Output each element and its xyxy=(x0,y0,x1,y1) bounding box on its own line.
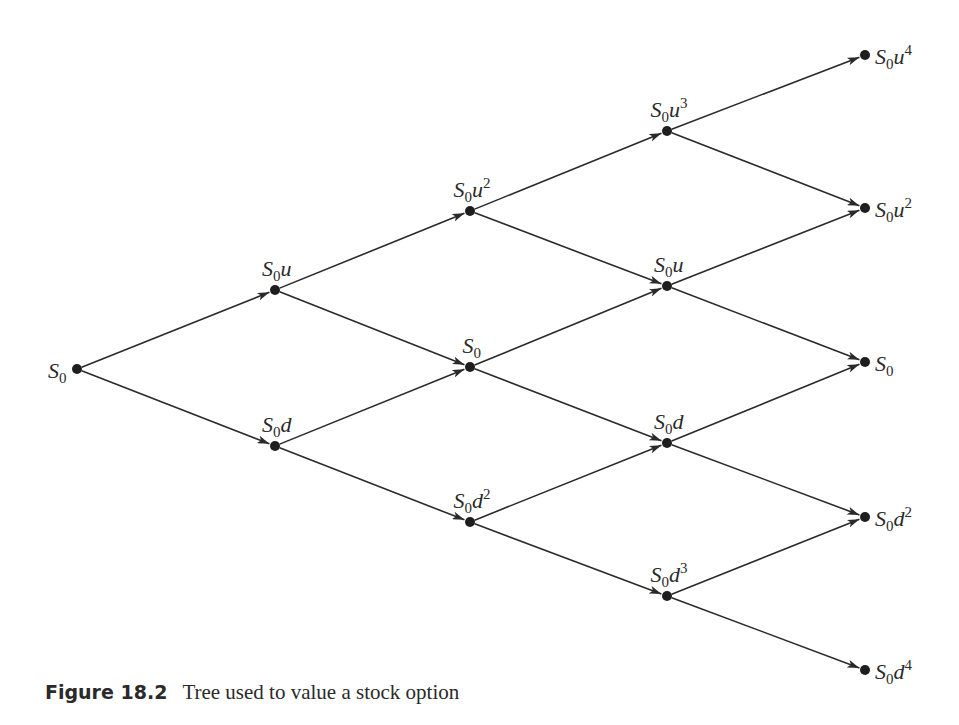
edge-arrow-n2_2-n3_3 xyxy=(475,524,662,594)
node-dot-n1_0 xyxy=(270,285,280,295)
label-base: S xyxy=(875,44,886,69)
label-variable: d xyxy=(894,506,905,531)
node-label-n2_1: S0 xyxy=(463,335,482,357)
node-dot-n3_2 xyxy=(662,438,672,448)
label-subscript: 0 xyxy=(474,345,482,361)
node-label-n3_0: S0u3 xyxy=(651,99,688,121)
label-exponent: 2 xyxy=(483,486,491,502)
tree-nodes xyxy=(72,50,870,675)
label-base: S xyxy=(875,351,886,376)
label-exponent: 3 xyxy=(680,95,688,111)
edge-arrow-n1_1-n2_1 xyxy=(280,369,465,444)
node-dot-n4_2 xyxy=(860,357,870,367)
node-label-n2_0: S0u2 xyxy=(454,179,491,201)
label-base: S xyxy=(875,197,886,222)
label-variable: u xyxy=(472,177,483,202)
edge-arrow-n3_2-n4_3 xyxy=(672,445,860,515)
label-subscript: 0 xyxy=(273,424,281,440)
edge-arrow-n2_0-n3_1 xyxy=(475,213,662,284)
label-exponent: 4 xyxy=(905,657,913,673)
label-variable: u xyxy=(281,256,292,281)
node-label-n3_1: S0u xyxy=(654,254,684,276)
node-label-n0_0: S0 xyxy=(48,360,67,382)
node-dot-n4_0 xyxy=(860,50,870,60)
node-dot-n3_1 xyxy=(662,281,672,291)
edge-arrow-n3_0-n4_0 xyxy=(672,57,860,129)
label-subscript: 0 xyxy=(465,500,473,516)
node-label-n4_2: S0 xyxy=(875,353,894,375)
label-base: S xyxy=(454,177,465,202)
label-variable: d xyxy=(472,488,483,513)
node-dot-n4_3 xyxy=(860,512,870,522)
edge-arrow-n3_2-n4_2 xyxy=(672,364,860,441)
label-variable: u xyxy=(894,197,905,222)
node-dot-n2_1 xyxy=(465,362,475,372)
label-variable: d xyxy=(669,562,680,587)
edge-arrow-n1_1-n2_2 xyxy=(280,448,465,520)
edge-arrow-n0_0-n1_0 xyxy=(82,292,270,367)
label-variable: d xyxy=(894,659,905,684)
label-base: S xyxy=(651,97,662,122)
edge-arrow-n1_0-n2_0 xyxy=(280,213,465,288)
node-dot-n1_1 xyxy=(270,441,280,451)
edge-arrow-n0_0-n1_1 xyxy=(82,371,270,444)
node-label-n4_0: S0u4 xyxy=(875,46,912,68)
node-label-n3_3: S0d3 xyxy=(651,564,688,586)
label-base: S xyxy=(262,412,273,437)
label-base: S xyxy=(262,256,273,281)
label-variable: u xyxy=(894,44,905,69)
label-base: S xyxy=(48,358,59,383)
node-dot-n2_0 xyxy=(465,206,475,216)
figure-number: Figure 18.2 xyxy=(45,681,167,703)
edge-arrow-n2_1-n3_2 xyxy=(475,369,662,441)
label-subscript: 0 xyxy=(662,109,670,125)
label-exponent: 3 xyxy=(680,560,688,576)
label-variable: d xyxy=(673,409,684,434)
edge-arrow-n3_1-n4_2 xyxy=(672,288,860,360)
node-label-n4_3: S0d2 xyxy=(875,508,912,530)
edge-arrow-n3_0-n4_1 xyxy=(672,133,860,206)
label-subscript: 0 xyxy=(465,189,473,205)
edge-arrow-n3_1-n4_1 xyxy=(672,210,860,284)
label-variable: u xyxy=(669,97,680,122)
label-subscript: 0 xyxy=(59,370,67,386)
label-exponent: 2 xyxy=(905,195,913,211)
figure-caption: Figure 18.2 Tree used to value a stock o… xyxy=(45,680,459,705)
label-exponent: 2 xyxy=(905,504,913,520)
label-subscript: 0 xyxy=(886,56,894,72)
node-dot-n4_1 xyxy=(860,203,870,213)
label-subscript: 0 xyxy=(886,363,894,379)
node-label-n4_4: S0d4 xyxy=(875,661,912,683)
label-base: S xyxy=(654,409,665,434)
label-subscript: 0 xyxy=(886,671,894,687)
label-base: S xyxy=(875,659,886,684)
label-base: S xyxy=(463,333,474,358)
node-label-n1_0: S0u xyxy=(262,258,292,280)
node-dot-n2_2 xyxy=(465,517,475,527)
label-subscript: 0 xyxy=(662,574,670,590)
tree-diagram xyxy=(0,0,959,725)
label-base: S xyxy=(651,562,662,587)
node-label-n2_2: S0d2 xyxy=(454,490,491,512)
label-variable: d xyxy=(281,412,292,437)
edge-arrow-n2_0-n3_0 xyxy=(475,133,662,209)
label-subscript: 0 xyxy=(665,264,673,280)
edge-arrow-n3_3-n4_4 xyxy=(672,598,860,668)
label-exponent: 4 xyxy=(905,42,913,58)
label-variable: u xyxy=(673,252,684,277)
label-base: S xyxy=(654,252,665,277)
binomial-tree-figure: S0S0uS0dS0u2S0S0d2S0u3S0uS0dS0d3S0u4S0u2… xyxy=(0,0,959,725)
edge-arrow-n2_2-n3_2 xyxy=(475,445,662,520)
label-base: S xyxy=(875,506,886,531)
node-dot-n3_3 xyxy=(662,591,672,601)
label-subscript: 0 xyxy=(886,209,894,225)
node-label-n4_1: S0u2 xyxy=(875,199,912,221)
node-label-n3_2: S0d xyxy=(654,411,684,433)
edge-arrow-n2_1-n3_1 xyxy=(475,288,662,365)
label-exponent: 2 xyxy=(483,175,491,191)
node-dot-n0_0 xyxy=(72,364,82,374)
label-subscript: 0 xyxy=(665,421,673,437)
edge-arrow-n3_3-n4_3 xyxy=(672,519,860,594)
label-subscript: 0 xyxy=(886,518,894,534)
node-dot-n3_0 xyxy=(662,126,672,136)
